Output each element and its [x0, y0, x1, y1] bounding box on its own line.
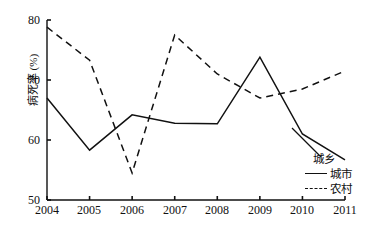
chart-plot-area — [0, 0, 378, 239]
legend-title: 城乡 — [313, 150, 335, 166]
legend-key-solid-icon — [305, 173, 327, 174]
legend-label-urban: 城市 — [330, 165, 352, 181]
legend-item-rural: 农村 — [305, 180, 352, 196]
legend-item-urban: 城市 — [305, 165, 352, 181]
legend-key-dashed-icon — [305, 188, 327, 189]
chart-container: 病死率 (%) 80 70 60 50 2004 2005 2006 2007 … — [0, 0, 378, 239]
legend-label-rural: 农村 — [330, 180, 352, 196]
series-line-rural — [47, 27, 345, 173]
series-line-urban — [47, 57, 345, 160]
